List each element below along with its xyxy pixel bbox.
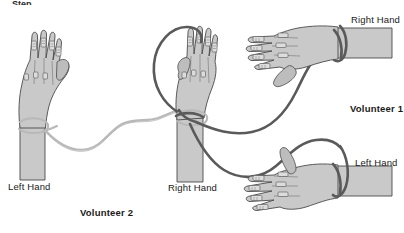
label-volunteer-2: Volunteer 2 bbox=[80, 208, 133, 218]
hand-left-volunteer-1 bbox=[244, 146, 392, 211]
forearm-right-v2 bbox=[177, 118, 203, 182]
thumb-left-v2 bbox=[57, 59, 69, 80]
cropped-caption-fragment: Step bbox=[12, 0, 38, 5]
label-left-hand-volunteer-2: Left Hand bbox=[8, 182, 51, 192]
cord-light-v2-left-to-right bbox=[46, 110, 178, 151]
knuckle-electrodes-right-v1 bbox=[276, 33, 288, 58]
hand-right-volunteer-1 bbox=[246, 26, 392, 87]
knuckle-electrodes-left-v1 bbox=[276, 172, 288, 197]
label-right-hand-volunteer-1: Right Hand bbox=[351, 15, 400, 25]
forearm-left-v2 bbox=[20, 126, 45, 180]
hand-connection-diagram: .sk { fill: #c9c9c9; stroke: #4a4a4a; st… bbox=[0, 0, 404, 233]
label-volunteer-1: Volunteer 1 bbox=[350, 104, 403, 114]
hand-left-volunteer-2 bbox=[19, 30, 69, 180]
label-right-hand-volunteer-2: Right Hand bbox=[168, 183, 217, 193]
diagram-canvas: .sk { fill: #c9c9c9; stroke: #4a4a4a; st… bbox=[0, 0, 404, 233]
thumb-right-v1 bbox=[273, 66, 296, 87]
label-left-hand-volunteer-1: Left Hand bbox=[355, 158, 398, 168]
